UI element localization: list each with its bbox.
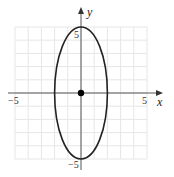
x-axis-label: x: [156, 95, 163, 109]
center-point: [78, 90, 84, 96]
x-tick-neg5: −5: [8, 95, 19, 106]
ellipse-chart: y x −5 5 5 −5: [0, 0, 174, 177]
x-tick-pos5: 5: [142, 95, 147, 106]
y-axis-arrow-icon: [78, 7, 84, 14]
y-axis-label: y: [86, 5, 93, 19]
y-tick-pos5: 5: [74, 29, 79, 40]
y-tick-neg5: −5: [68, 159, 79, 170]
